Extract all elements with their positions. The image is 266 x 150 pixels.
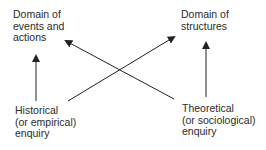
node-structures: Domain of structures <box>181 9 229 32</box>
node-historical-enquiry: Historical (or empirical) enquiry <box>15 105 76 140</box>
arrow-historical-to-structures <box>68 37 174 101</box>
node-theoretical-enquiry: Theoretical (or sociological) enquiry <box>182 103 256 138</box>
node-historical-line-1: Historical <box>15 105 76 117</box>
node-events-actions: Domain of events and actions <box>13 9 64 44</box>
node-historical-line-3: enquiry <box>15 128 76 140</box>
node-events-line-1: Domain of <box>13 9 64 21</box>
node-structures-line-2: structures <box>181 21 229 33</box>
node-theoretical-line-1: Theoretical <box>182 103 256 115</box>
node-theoretical-line-3: enquiry <box>182 126 256 138</box>
node-events-line-3: actions <box>13 32 64 44</box>
node-structures-line-1: Domain of <box>181 9 229 21</box>
arrow-theoretical-to-events <box>66 41 174 99</box>
